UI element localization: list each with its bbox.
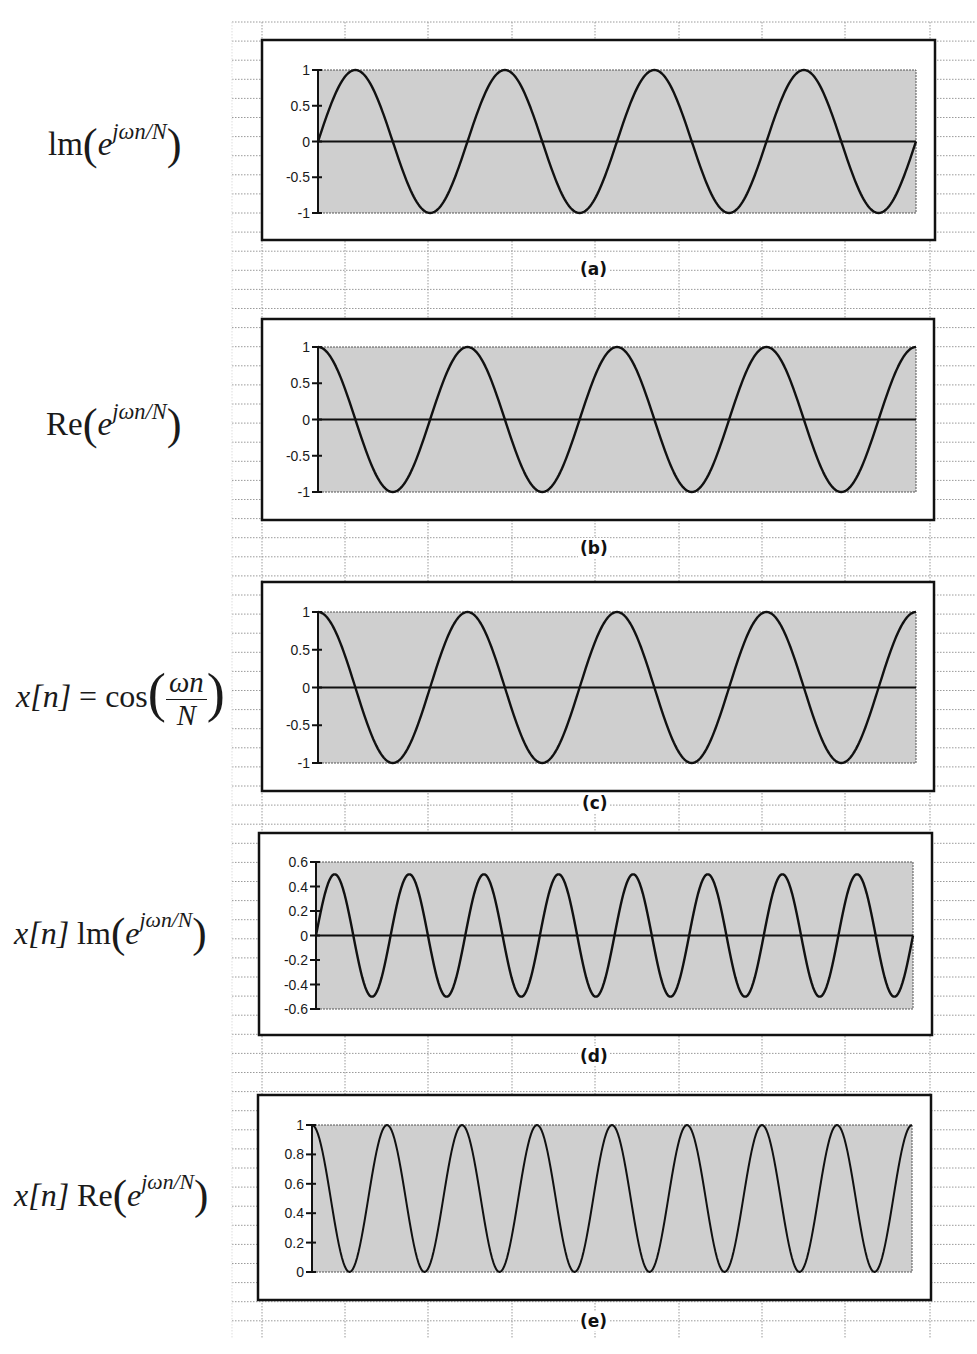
y-tick-label: -0.6 xyxy=(284,1001,308,1017)
y-tick-label: 1 xyxy=(302,604,310,620)
y-tick-label: -0.4 xyxy=(284,977,308,993)
charts-layer: 10.50-0.5-1 10.50-0.5-1 10.50-0.5-1 0.60… xyxy=(0,0,977,1354)
y-tick-label: -1 xyxy=(298,484,311,500)
y-tick-label: 0.2 xyxy=(285,1235,305,1251)
y-tick-label: 0 xyxy=(300,928,308,944)
y-tick-label: 0.6 xyxy=(285,1176,305,1192)
y-tick-label: 0.5 xyxy=(291,375,311,391)
y-tick-label: 0.4 xyxy=(285,1205,305,1221)
y-tick-label: -0.5 xyxy=(286,717,310,733)
y-tick-label: 0.4 xyxy=(289,879,309,895)
y-tick-label: 0.6 xyxy=(289,854,309,870)
chart-e: 10.80.60.40.20 xyxy=(258,1095,931,1300)
y-tick-label: 1 xyxy=(302,339,310,355)
chart-b: 10.50-0.5-1 xyxy=(262,319,934,520)
y-tick-label: 0 xyxy=(296,1264,304,1280)
chart-d: 0.60.40.20-0.2-0.4-0.6 xyxy=(259,833,932,1035)
y-tick-label: 1 xyxy=(296,1117,304,1133)
y-tick-label: -0.5 xyxy=(286,448,310,464)
y-tick-label: -1 xyxy=(298,755,311,771)
y-tick-label: 0 xyxy=(302,680,310,696)
y-tick-label: 0 xyxy=(302,134,310,150)
y-tick-label: 0.5 xyxy=(291,98,311,114)
y-tick-label: 0.8 xyxy=(285,1146,305,1162)
y-tick-label: 1 xyxy=(302,62,310,78)
panel-label-e: (e) xyxy=(578,1311,609,1331)
panel-label-c: (c) xyxy=(580,793,610,813)
y-tick-label: 0.2 xyxy=(289,903,309,919)
panel-label-d: (d) xyxy=(578,1046,610,1066)
y-tick-label: 0 xyxy=(302,412,310,428)
plot-area xyxy=(312,1125,912,1272)
panel-label-b: (b) xyxy=(578,538,610,558)
y-tick-label: -0.5 xyxy=(286,169,310,185)
chart-a: 10.50-0.5-1 xyxy=(262,40,935,240)
y-tick-label: -0.2 xyxy=(284,952,308,968)
y-tick-label: -1 xyxy=(298,205,311,221)
panel-label-a: (a) xyxy=(578,259,609,279)
chart-c: 10.50-0.5-1 xyxy=(262,582,934,791)
y-tick-label: 0.5 xyxy=(291,642,311,658)
